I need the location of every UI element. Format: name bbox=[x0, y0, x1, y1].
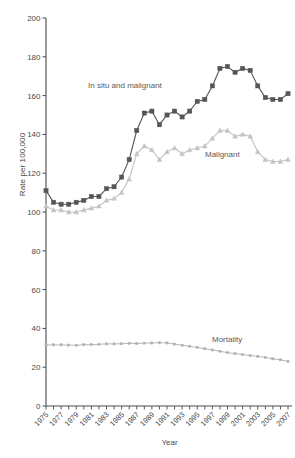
data-point-marker bbox=[74, 200, 78, 204]
data-point-marker bbox=[287, 360, 289, 362]
data-point-marker bbox=[257, 355, 259, 357]
x-tick-label: 2003 bbox=[244, 410, 262, 428]
series-label-in-situ-and-malignant: In situ and malignant bbox=[88, 81, 162, 90]
x-axis-title-text: Year bbox=[161, 438, 177, 447]
data-point-marker bbox=[82, 198, 86, 202]
x-tick-label: 1997 bbox=[199, 410, 217, 428]
data-point-marker bbox=[83, 344, 85, 346]
data-point-marker bbox=[249, 354, 251, 356]
data-point-marker bbox=[142, 144, 147, 148]
x-tick-label: 1993 bbox=[168, 410, 186, 428]
series-mortality bbox=[45, 342, 289, 363]
y-axis-title: Rate per 100,000 bbox=[18, 115, 27, 215]
y-tick-label: 0 bbox=[36, 402, 41, 411]
data-point-marker bbox=[136, 342, 138, 344]
data-point-marker bbox=[120, 175, 124, 179]
x-axis: 1975197719791981198319851987198919911993… bbox=[32, 406, 292, 428]
data-point-marker bbox=[180, 115, 184, 119]
data-point-marker bbox=[242, 353, 244, 355]
data-point-marker bbox=[272, 358, 274, 360]
y-tick-label: 20 bbox=[32, 363, 41, 372]
y-tick-label: 140 bbox=[27, 130, 41, 139]
x-tick-label: 1983 bbox=[93, 410, 111, 428]
x-tick-label: 1987 bbox=[123, 410, 141, 428]
data-point-marker bbox=[196, 346, 198, 348]
y-axis: 020406080100120140160180200 bbox=[27, 14, 46, 411]
data-point-marker bbox=[240, 132, 245, 136]
data-point-marker bbox=[286, 157, 291, 161]
series-label-malignant: Malignant bbox=[205, 150, 240, 159]
data-point-marker bbox=[98, 343, 100, 345]
data-series-group bbox=[44, 64, 291, 362]
data-point-marker bbox=[189, 345, 191, 347]
data-point-marker bbox=[278, 97, 282, 101]
data-point-marker bbox=[279, 359, 281, 361]
data-point-marker bbox=[203, 97, 207, 101]
data-point-marker bbox=[256, 84, 260, 88]
data-point-marker bbox=[188, 109, 192, 113]
data-point-marker bbox=[142, 111, 146, 115]
x-tick-label: 1999 bbox=[214, 410, 232, 428]
data-point-marker bbox=[59, 202, 63, 206]
data-point-marker bbox=[172, 109, 176, 113]
data-point-marker bbox=[128, 342, 130, 344]
data-point-marker bbox=[218, 66, 222, 70]
data-point-marker bbox=[105, 343, 107, 345]
data-point-marker bbox=[97, 194, 101, 198]
chart-figure: 020406080100120140160180200 197519771979… bbox=[0, 0, 295, 458]
data-point-marker bbox=[68, 344, 70, 346]
data-point-marker bbox=[211, 349, 213, 351]
data-point-marker bbox=[255, 149, 260, 153]
data-point-marker bbox=[45, 344, 47, 346]
x-tick-label: 1977 bbox=[47, 410, 65, 428]
data-point-marker bbox=[204, 348, 206, 350]
y-tick-label: 40 bbox=[32, 324, 41, 333]
data-point-marker bbox=[219, 350, 221, 352]
series-label-mortality: Mortality bbox=[212, 335, 242, 344]
series-in-situ-and-malignant bbox=[44, 64, 290, 206]
x-tick-label: 2001 bbox=[229, 410, 247, 428]
x-tick-label: 2005 bbox=[259, 410, 277, 428]
data-point-marker bbox=[90, 344, 92, 346]
data-point-marker bbox=[165, 113, 169, 117]
x-tick-label: 1989 bbox=[138, 410, 156, 428]
x-tick-label: 1995 bbox=[184, 410, 202, 428]
data-point-marker bbox=[241, 66, 245, 70]
data-point-marker bbox=[89, 194, 93, 198]
x-axis-title: Year bbox=[0, 438, 295, 447]
data-point-marker bbox=[60, 344, 62, 346]
x-tick-label: 1981 bbox=[78, 410, 96, 428]
data-point-marker bbox=[151, 342, 153, 344]
x-tick-label: 1975 bbox=[32, 410, 50, 428]
data-point-marker bbox=[104, 187, 108, 191]
data-point-marker bbox=[143, 342, 145, 344]
data-point-marker bbox=[44, 204, 49, 208]
data-point-marker bbox=[248, 68, 252, 72]
data-point-marker bbox=[112, 185, 116, 189]
data-point-marker bbox=[44, 189, 48, 193]
x-tick-label: 1979 bbox=[63, 410, 81, 428]
data-point-marker bbox=[271, 97, 275, 101]
data-point-marker bbox=[127, 158, 131, 162]
y-tick-label: 80 bbox=[32, 247, 41, 256]
data-point-marker bbox=[166, 342, 168, 344]
y-tick-label: 160 bbox=[27, 92, 41, 101]
data-point-marker bbox=[286, 92, 290, 96]
y-tick-label: 200 bbox=[27, 14, 41, 23]
data-point-marker bbox=[263, 95, 267, 99]
data-point-marker bbox=[210, 84, 214, 88]
data-point-marker bbox=[264, 356, 266, 358]
data-point-marker bbox=[52, 344, 54, 346]
data-point-marker bbox=[172, 145, 177, 149]
y-tick-label: 60 bbox=[32, 286, 41, 295]
data-point-marker bbox=[127, 177, 132, 181]
data-point-marker bbox=[181, 344, 183, 346]
data-point-marker bbox=[157, 123, 161, 127]
data-point-marker bbox=[158, 342, 160, 344]
data-point-marker bbox=[121, 343, 123, 345]
data-point-marker bbox=[67, 202, 71, 206]
data-point-marker bbox=[234, 353, 236, 355]
data-point-marker bbox=[119, 190, 124, 194]
data-point-marker bbox=[113, 343, 115, 345]
data-point-marker bbox=[225, 64, 229, 68]
